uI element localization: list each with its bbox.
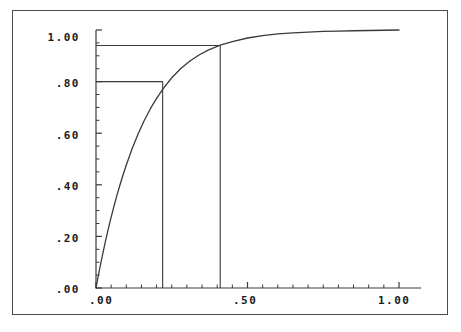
y-tick-label-08: .80 — [28, 77, 80, 90]
screenshot-root: 1.00 .80 .60 .40 .20 .00 .00 .50 1.00 — [0, 0, 461, 332]
y-tick-label-1: 1.00 — [28, 31, 80, 44]
y-tick-label-04: .40 — [28, 180, 80, 193]
data-curve-line — [96, 30, 399, 288]
y-tick-label-02: .20 — [28, 232, 80, 245]
y-axis-ticks — [96, 30, 102, 288]
y-tick-label-00: .00 — [28, 283, 80, 296]
x-tick-label-05: .50 — [233, 294, 257, 307]
x-tick-label-00: .00 — [89, 294, 113, 307]
axis-lines — [96, 30, 421, 288]
y-tick-label-06: .60 — [28, 129, 80, 142]
reference-lines — [96, 45, 220, 288]
x-axis-ticks — [96, 282, 399, 288]
x-tick-label-10: 1.00 — [378, 294, 411, 307]
